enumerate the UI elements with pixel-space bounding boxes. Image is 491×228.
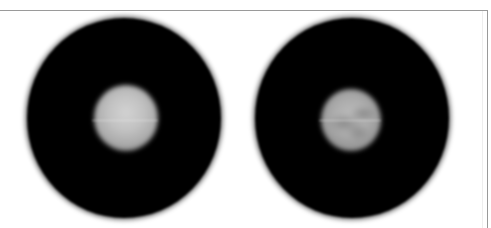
frame-top-border [0, 10, 488, 11]
left-bright-disc [94, 85, 158, 151]
right-image-panel [255, 18, 449, 218]
frame-right-inner-line [482, 11, 483, 228]
frame-right-border [487, 10, 488, 228]
left-scanline [92, 120, 158, 121]
left-image-panel [27, 18, 221, 218]
right-scanline [319, 120, 381, 121]
